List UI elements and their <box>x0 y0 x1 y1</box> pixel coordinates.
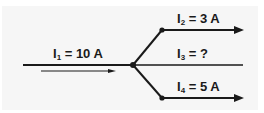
arrowhead-icon <box>234 26 244 34</box>
node-icon <box>159 95 164 100</box>
arrowhead-icon <box>234 94 244 102</box>
label-i3: I3 = ? <box>177 47 208 65</box>
label-i1: I1 = 10 A <box>53 47 103 65</box>
arrowhead-icon <box>108 69 116 73</box>
junction-node-icon <box>130 62 136 68</box>
label-i4: I4 = 5 A <box>177 80 220 98</box>
label-i2: I2 = 3 A <box>177 12 220 30</box>
junction-diagram: I1 = 10 A I2 = 3 A I3 = ? I4 = 5 A <box>0 0 264 113</box>
node-icon <box>159 27 164 32</box>
circuit-wires <box>0 0 264 113</box>
